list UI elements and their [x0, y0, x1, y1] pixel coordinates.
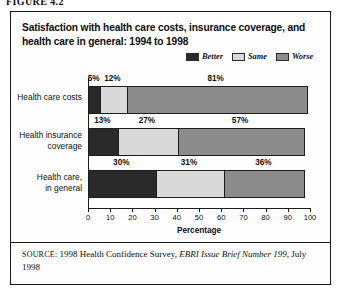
bar-value-label: 30% — [113, 158, 129, 167]
x-axis-tick-label: 30 — [150, 213, 158, 222]
source-note: SOURCE: 1998 Health Confidence Survey, E… — [22, 248, 314, 273]
bar-value-label: 13% — [94, 116, 110, 125]
x-axis-tick — [221, 208, 222, 212]
bar-segment-better[interactable] — [89, 87, 100, 113]
stacked-bar[interactable] — [88, 170, 305, 198]
bar-segment-same[interactable] — [156, 171, 225, 197]
x-axis-tick — [266, 208, 267, 212]
source-text-before: : 1998 Health Confidence Survey, — [55, 249, 179, 259]
source-divider — [11, 242, 330, 243]
bar-value-label: 31% — [181, 158, 197, 167]
bar-value-label: 36% — [255, 158, 271, 167]
x-axis-tick-label: 90 — [284, 213, 292, 222]
legend-swatch-same-icon — [232, 53, 245, 61]
category-label-line: in general — [45, 183, 82, 193]
source-keyword: SOURCE — [22, 250, 55, 259]
legend-item-same: Same — [232, 52, 267, 61]
x-axis-tick-label: 40 — [173, 213, 181, 222]
legend-swatch-better-icon — [186, 53, 199, 61]
x-axis-tick-label: 60 — [217, 213, 225, 222]
category-label-line: Health insurance — [19, 130, 82, 140]
figure-label: FIGURE 4.2 — [6, 0, 64, 8]
bar-value-label: 5% — [88, 74, 100, 83]
bar-value-label: 81% — [207, 74, 223, 83]
bar-row: 13%27%57% — [88, 128, 310, 154]
bar-segment-better[interactable] — [89, 129, 118, 155]
chart-legend: BetterSameWorse — [186, 52, 313, 61]
x-axis-tick-label: 20 — [128, 213, 136, 222]
bar-segment-worse[interactable] — [127, 87, 307, 113]
x-axis-tick-label: 50 — [195, 213, 203, 222]
legend-label: Worse — [292, 52, 313, 61]
category-label-line: Health care, — [37, 172, 82, 182]
bar-value-label: 57% — [232, 116, 248, 125]
x-axis-tick — [132, 208, 133, 212]
legend-item-worse: Worse — [276, 52, 313, 61]
x-axis-tick — [177, 208, 178, 212]
category-label-1: Health insurancecoverage — [2, 130, 82, 151]
category-label-line: coverage — [48, 141, 82, 151]
x-axis-tick-label: 0 — [86, 213, 90, 222]
bar-value-label: 27% — [139, 116, 155, 125]
bar-segment-same[interactable] — [100, 87, 127, 113]
x-axis-tick-label: 100 — [304, 213, 317, 222]
legend-label: Same — [248, 52, 267, 61]
stacked-bar[interactable] — [88, 128, 305, 156]
category-label-0: Health care costs — [2, 92, 82, 103]
x-axis-tick-label: 10 — [106, 213, 114, 222]
x-axis-tick — [288, 208, 289, 212]
category-label-2: Health care,in general — [2, 172, 82, 193]
bar-row: 5%12%81% — [88, 86, 310, 112]
x-axis-tick — [88, 208, 89, 212]
x-axis-tick — [243, 208, 244, 212]
chart-title: Satisfaction with health care costs, ins… — [22, 21, 317, 48]
bar-value-label: 12% — [104, 74, 120, 83]
bar-row: 30%31%36% — [88, 170, 310, 196]
plot-area: 5%12%81%13%27%57%30%31%36% — [88, 78, 310, 208]
bar-segment-same[interactable] — [118, 129, 178, 155]
bar-segment-worse[interactable] — [224, 171, 304, 197]
category-label-line: Health care costs — [17, 92, 82, 102]
legend-label: Better — [202, 52, 223, 61]
bar-segment-worse[interactable] — [178, 129, 305, 155]
stacked-bar[interactable] — [88, 86, 308, 114]
bar-segment-better[interactable] — [89, 171, 156, 197]
x-axis-tick — [199, 208, 200, 212]
source-citation: EBRI Issue Brief Number 199 — [179, 249, 286, 259]
legend-item-better: Better — [186, 52, 223, 61]
x-axis-title: Percentage — [88, 226, 310, 235]
x-axis-tick-label: 70 — [239, 213, 247, 222]
x-axis-tick-label: 80 — [261, 213, 269, 222]
x-axis-tick — [110, 208, 111, 212]
x-axis-tick — [155, 208, 156, 212]
x-axis-tick — [310, 208, 311, 212]
legend-swatch-worse-icon — [276, 53, 289, 61]
